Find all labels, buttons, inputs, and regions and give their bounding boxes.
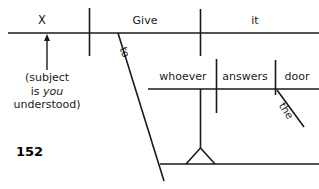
note-line-3: understood) (14, 98, 81, 112)
note-line-1: (subject (14, 71, 81, 85)
pedestal-triangle-left (186, 148, 201, 164)
page-number: 152 (16, 144, 43, 159)
label-clause-object-door: door (285, 70, 310, 83)
label-subject-x: X (38, 14, 46, 27)
diagram-page: X Give it to whoever answers door the (s… (0, 0, 319, 189)
label-clause-subject-whoever: whoever (159, 70, 206, 83)
note-line-2-italic: you (43, 85, 63, 98)
subject-understood-note: (subject is you understood) (14, 71, 81, 112)
label-verb-give: Give (133, 14, 158, 27)
label-object-it: it (251, 14, 258, 27)
note-line-2: is you (14, 85, 81, 99)
note-line-2-prefix: is (31, 85, 43, 98)
pedestal-triangle-right (201, 148, 216, 164)
label-clause-verb-answers: answers (222, 70, 267, 83)
subject-note-arrow-head (44, 34, 50, 41)
